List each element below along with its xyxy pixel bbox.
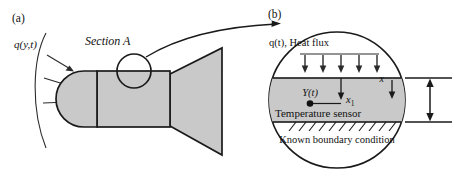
section-a-label: Section A bbox=[85, 34, 131, 48]
slab-thickness-dimension bbox=[405, 78, 452, 122]
panel-b-label: (b) bbox=[268, 8, 282, 21]
boundary-condition-label: Known boundary condition bbox=[279, 134, 395, 145]
vehicle-nose bbox=[56, 71, 97, 127]
temperature-sensor-dot bbox=[307, 100, 314, 107]
vehicle-nozzle bbox=[170, 48, 222, 155]
dimension-double-arrow bbox=[426, 79, 433, 122]
panel-a-group: (a) q(y,t) bbox=[12, 12, 222, 155]
flux-arrow-a-1 bbox=[47, 55, 74, 72]
flux-arc-a bbox=[35, 33, 46, 148]
depth-axis-label: x bbox=[379, 73, 385, 84]
panel-a-label: (a) bbox=[12, 12, 25, 25]
callout-connector-line bbox=[146, 24, 276, 57]
panel-b-group: (b) q(t), Heat flux bbox=[265, 8, 409, 168]
panel-a-flux-label: q(y,t) bbox=[14, 38, 37, 51]
heat-conduction-figure: (a) q(y,t) bbox=[0, 0, 467, 186]
panel-b-flux-label: q(t), Heat flux bbox=[269, 37, 330, 49]
callout-connector-arrowhead bbox=[272, 21, 282, 27]
sensor-output-label: Y(t) bbox=[302, 87, 318, 99]
temperature-sensor-caption: Temperature sensor bbox=[275, 107, 362, 119]
vehicle-midbody bbox=[97, 71, 170, 127]
figure-container: (a) q(y,t) bbox=[0, 0, 467, 186]
